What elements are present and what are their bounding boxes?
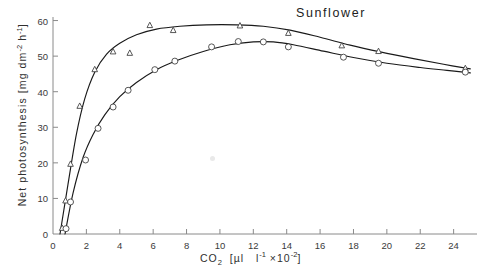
data-point-circle <box>63 226 69 232</box>
y-tick-label: 0 <box>28 229 48 240</box>
data-point-circle <box>376 60 382 66</box>
x-unit-1: µl <box>234 252 244 264</box>
y-axis-label: Net photosynthesis [mg dm-2 h-1] <box>14 10 28 220</box>
data-point-circle <box>68 199 74 205</box>
y-unit-open: [ <box>16 89 28 93</box>
x-tick-label: 2 <box>84 240 89 251</box>
paper-artifact-smudge <box>210 156 215 161</box>
axes-group <box>53 17 477 234</box>
plot-canvas <box>0 0 482 267</box>
data-point-circle <box>209 44 215 50</box>
x-tick-label: 24 <box>448 240 459 251</box>
data-point-triangle <box>286 30 292 35</box>
data-point-triangle <box>170 27 176 32</box>
data-point-triangle <box>127 50 133 55</box>
x-axis-label: CO2 [µl] l-1 ×10-2] <box>200 250 301 267</box>
data-point-circle <box>83 157 89 163</box>
data-point-circle <box>285 44 291 50</box>
series-circles <box>63 39 470 234</box>
y-axis-label-units: [mg dm-2 h-1] <box>16 23 28 93</box>
y-tick-label: 10 <box>28 193 48 204</box>
x-tick-label: 22 <box>415 240 426 251</box>
x-tick-label: 0 <box>50 240 55 251</box>
data-point-circle <box>260 39 266 45</box>
x-tick-label: 8 <box>184 240 189 251</box>
fitted-curve-triangles <box>60 25 470 234</box>
y-tick-label: 50 <box>28 51 48 62</box>
data-point-circle <box>110 104 116 110</box>
x-unit-2-exp: -1 <box>259 250 266 259</box>
figure-container: Sunflower Net photosynthesis [mg dm-2 h-… <box>0 0 482 267</box>
x-species: CO <box>200 252 218 264</box>
y-tick-label: 20 <box>28 157 48 168</box>
x-tick-label: 12 <box>248 240 259 251</box>
data-point-circle <box>152 67 158 73</box>
y-tick-label: 60 <box>28 15 48 26</box>
y-unit-2: h <box>16 34 28 41</box>
x-tick-label: 20 <box>382 240 393 251</box>
x-tick-label: 4 <box>117 240 122 251</box>
data-point-circle <box>172 58 178 64</box>
y-tick-label: 40 <box>28 86 48 97</box>
x-unit-close: ] <box>297 252 301 264</box>
data-series-group <box>59 22 470 234</box>
data-point-circle <box>462 69 468 75</box>
y-unit-1-exp: -2 <box>14 45 23 52</box>
x-tick-label: 10 <box>215 240 226 251</box>
data-point-circle <box>125 87 131 93</box>
y-axis-label-name: Net photosynthesis <box>16 97 28 206</box>
x-tick-label: 16 <box>315 240 326 251</box>
y-unit-2-exp: -1 <box>14 27 23 34</box>
data-point-triangle <box>77 103 83 108</box>
y-unit-1: mg dm <box>16 52 28 90</box>
data-point-circle <box>95 125 101 131</box>
data-point-triangle <box>68 161 74 166</box>
x-tick-label: 18 <box>348 240 359 251</box>
x-species-sub: 2 <box>218 258 222 267</box>
data-point-circle <box>235 39 241 45</box>
data-point-circle <box>340 54 346 60</box>
x-tick-label: 6 <box>151 240 156 251</box>
y-unit-close: ] <box>16 23 28 27</box>
series-triangles <box>59 22 470 234</box>
data-point-triangle <box>147 22 153 27</box>
chart-title: Sunflower <box>296 6 366 20</box>
x-tick-label: 14 <box>281 240 292 251</box>
fitted-curve-circles <box>65 42 470 234</box>
x-mult: ×10 <box>270 252 291 264</box>
y-tick-label: 30 <box>28 122 48 133</box>
